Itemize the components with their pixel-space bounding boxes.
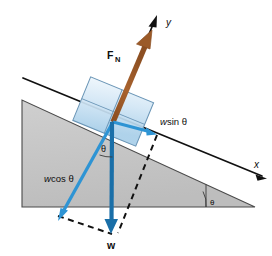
w-cos-theta-label: w cos θ <box>44 173 74 184</box>
diagram-canvas: y x F N w sin θ w cos θ w θ θ <box>0 0 272 256</box>
normal-force-label-text: F <box>107 49 114 61</box>
inclined-plane-figure: y x F N w sin θ w cos θ w θ θ <box>0 0 272 256</box>
w-sin-theta-label-rest: sin θ <box>167 116 187 127</box>
weight-label: w <box>106 239 116 251</box>
w-cos-theta-label-rest: cos θ <box>51 173 74 184</box>
x-axis-label: x <box>253 159 260 170</box>
theta-label-incline: θ <box>210 198 215 207</box>
normal-force-label: F N <box>107 49 120 64</box>
w-sin-theta-label: w sin θ <box>160 116 187 127</box>
y-axis-label: y <box>165 17 172 28</box>
normal-force-label-subscript: N <box>115 55 120 64</box>
theta-label-block: θ <box>101 144 106 154</box>
